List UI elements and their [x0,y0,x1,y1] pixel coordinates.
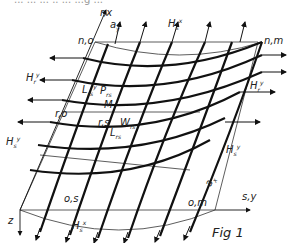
axis-label-rx: r,x [100,8,112,18]
force-label-m: M [104,100,113,110]
cable-net-diagram [0,0,289,243]
force-label-hs-y-right: Hsy [226,144,240,157]
axis-label-sy: s,y [242,192,256,202]
figure-caption: Fig 1 [212,226,244,239]
force-label-hs-x-bottom: Hsx [72,220,86,233]
node-label-r0: r,o [55,109,68,119]
force-label-hr-y-right: Hry [250,80,264,93]
cables-s [40,42,262,238]
node-label-os: o,s [64,194,79,204]
node-label-n0: n,o [78,36,94,46]
force-label-hs-x-top: Hsx [168,18,182,31]
force-label-hr-y-left: Hry [26,72,40,85]
force-label-lrs-x: Lrs [110,128,121,140]
force-label-hs-y-left: Hsy [6,136,20,149]
force-label-lrs-y: Lrsy [82,84,97,97]
node-label-rs: r,s [98,118,110,128]
dim-label-ay: ay [110,20,120,32]
force-label-wrs: Wrs [120,118,135,130]
axis-label-z: z [8,216,13,226]
node-label-nm: n,m [264,36,283,46]
force-label-prs: Prs [100,86,112,98]
node-label-om: o,m [188,198,207,208]
